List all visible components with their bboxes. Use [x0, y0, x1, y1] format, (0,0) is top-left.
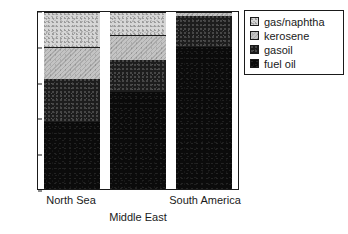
legend-label: gasoil: [264, 44, 293, 56]
legend-item-fuel-oil: fuel oil: [250, 57, 339, 70]
x-axis-label-north-sea: North Sea: [46, 194, 96, 206]
stacked-bar-chart: 100 80 60 40 20 0: [0, 0, 348, 234]
y-tick-mark: [38, 155, 42, 156]
y-tick-mark: [38, 12, 42, 13]
legend-label: gas/naphtha: [264, 16, 325, 28]
legend-swatch-fuel-oil-icon: [250, 59, 259, 68]
bar-segment-kerosene: [44, 47, 100, 79]
bar-south-america: [176, 12, 232, 189]
bar-segment-gasoil: [44, 79, 100, 121]
legend-label: fuel oil: [264, 58, 296, 70]
bar-segment-gasoil: [176, 16, 232, 48]
legend-item-gasoil: gasoil: [250, 43, 339, 56]
bar-north-sea: [44, 12, 100, 189]
x-axis-label-middle-east: Middle East: [109, 211, 166, 223]
legend-item-kerosene: kerosene: [250, 29, 339, 42]
bar-segment-fuel-oil: [110, 92, 166, 189]
bar-segment-kerosene: [176, 12, 232, 16]
bar-middle-east: [110, 12, 166, 189]
legend-label: kerosene: [264, 30, 309, 42]
legend-item-gas-naphtha: gas/naphtha: [250, 15, 339, 28]
y-tick-mark: [38, 191, 42, 192]
y-tick-mark: [38, 119, 42, 120]
bar-segment-fuel-oil: [44, 122, 100, 189]
legend: gas/naphtha kerosene gasoil fuel oil: [244, 10, 344, 75]
bar-segment-gas-naphtha: [110, 12, 166, 35]
y-tick-mark: [38, 83, 42, 84]
plot-area: [37, 11, 239, 190]
bar-segment-gasoil: [110, 60, 166, 92]
bar-segment-gas-naphtha: [44, 12, 100, 47]
y-tick-mark: [38, 47, 42, 48]
legend-swatch-gasoil-icon: [250, 45, 259, 54]
bar-segment-kerosene: [110, 35, 166, 60]
bar-segment-fuel-oil: [176, 47, 232, 189]
x-axis-label-south-america: South America: [169, 194, 241, 206]
legend-swatch-kerosene-icon: [250, 31, 259, 40]
legend-swatch-gas-naphtha-icon: [250, 17, 259, 26]
